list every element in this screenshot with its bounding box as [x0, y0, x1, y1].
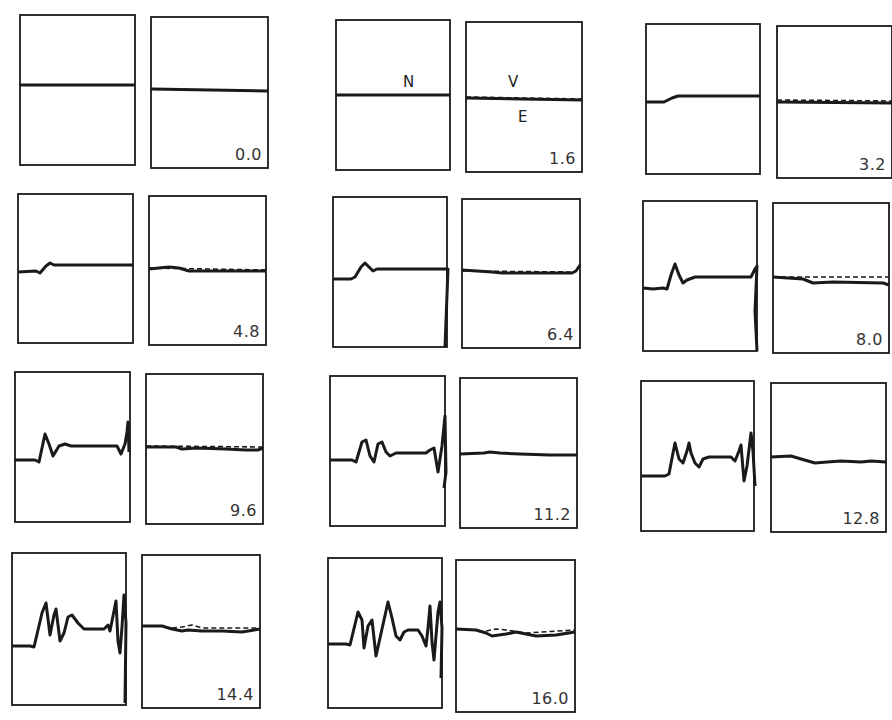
frame-8-0-right-panel: 8.0: [773, 203, 889, 353]
time-label: 11.2: [533, 505, 571, 524]
frame-0-0-right-panel: 0.0: [151, 17, 268, 168]
frame-12-8-right-panel: 12.8: [771, 383, 886, 532]
time-label: 12.8: [842, 509, 880, 528]
annotation-v-label: V: [508, 73, 518, 91]
frame-11-2-left-panel: [330, 376, 445, 526]
frame-4-8-left-panel: [18, 194, 133, 343]
frame-11-2-right-panel: 11.2: [460, 378, 577, 528]
frame-14-4-left-panel: [12, 553, 126, 705]
time-label: 1.6: [549, 149, 576, 168]
frame-3-2-left-panel: [646, 24, 760, 174]
annotation-e-label: E: [518, 108, 527, 126]
frame-6-4-right-panel: 6.4: [462, 199, 580, 348]
time-label: 6.4: [547, 325, 574, 344]
annotation-n-label: N: [403, 73, 414, 91]
frame-0-0-left-panel: [20, 15, 135, 165]
frame-14-4-right-panel: 14.4: [142, 555, 260, 708]
time-label: 4.8: [233, 322, 260, 341]
frame-8-0-left-panel: [643, 201, 757, 351]
time-label: 16.0: [531, 689, 569, 708]
frame-9-6-left-panel: [15, 372, 130, 522]
frame-6-4-left-panel: [333, 197, 447, 347]
frame-16-0-right-panel: 16.0: [456, 560, 575, 712]
frame-9-6-right-panel: 9.6: [146, 374, 263, 524]
frame-4-8-right-panel: 4.8: [149, 196, 266, 345]
frame-1-6-left-panel: [336, 20, 450, 170]
time-label: 9.6: [230, 501, 257, 520]
frame-3-2-right-panel: 3.2: [777, 26, 892, 178]
time-label: 3.2: [859, 155, 886, 174]
frame-1-6-right-panel: 1.6: [466, 22, 582, 172]
time-label: 14.4: [216, 685, 254, 704]
time-label: 0.0: [235, 145, 262, 164]
frame-16-0-left-panel: [328, 558, 442, 708]
frame-12-8-left-panel: [641, 381, 754, 531]
time-label: 8.0: [856, 330, 883, 349]
